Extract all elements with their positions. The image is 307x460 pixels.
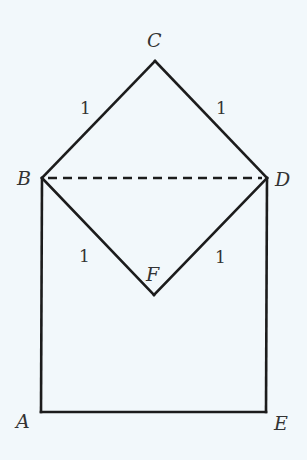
length-label-BF: 1	[79, 246, 90, 266]
edge-BA	[41, 178, 42, 412]
vertex-label-A: A	[14, 410, 30, 432]
edge-FD	[154, 178, 267, 295]
vertex-label-B: B	[16, 167, 31, 189]
edge-BC	[42, 61, 155, 178]
vertex-label-D: D	[274, 168, 290, 190]
length-label-CD: 1	[216, 98, 227, 118]
vertex-label-F: F	[145, 263, 160, 285]
geometry-diagram: C B D F A E 1 1 1 1	[0, 0, 307, 460]
edge-BF	[42, 178, 154, 295]
edge-CD	[155, 61, 267, 178]
edge-ED	[266, 178, 267, 412]
length-label-FD: 1	[215, 247, 226, 267]
vertex-label-E: E	[273, 412, 288, 434]
vertex-label-C: C	[147, 29, 162, 51]
length-label-BC: 1	[80, 98, 91, 118]
